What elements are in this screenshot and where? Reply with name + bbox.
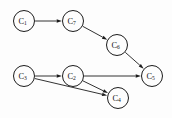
- node-label-subscript: 7: [73, 20, 76, 26]
- edge-layer: [35, 19, 144, 96]
- node-c7[interactable]: C7: [63, 11, 84, 32]
- edge-c6-to-c5: [125, 52, 143, 68]
- node-c1[interactable]: C1: [14, 11, 35, 32]
- node-c6[interactable]: C6: [107, 35, 128, 56]
- arrowhead-icon: [57, 19, 62, 22]
- edge-c1-to-c7: [35, 19, 62, 22]
- arrowhead-icon: [102, 36, 107, 40]
- node-label-subscript: 6: [117, 44, 120, 50]
- arrowhead-icon: [136, 74, 141, 77]
- edge-c2-to-c5: [84, 74, 141, 77]
- directed-graph: C1C7C6C3C2C5C4: [0, 0, 172, 118]
- node-label-subscript: 1: [24, 20, 27, 26]
- node-c5[interactable]: C5: [142, 66, 163, 87]
- node-c4[interactable]: C4: [108, 88, 129, 109]
- node-c2[interactable]: C2: [63, 66, 84, 87]
- edge-c2-to-c4: [83, 81, 108, 93]
- node-c3[interactable]: C3: [14, 66, 35, 87]
- arrowhead-icon: [102, 93, 107, 96]
- node-label-subscript: 4: [118, 97, 121, 103]
- edge-c7-to-c6: [83, 26, 108, 39]
- node-label-subscript: 3: [24, 75, 27, 81]
- node-layer: C1C7C6C3C2C5C4: [14, 11, 163, 109]
- node-label-subscript: 5: [152, 75, 155, 81]
- arrowhead-icon: [57, 74, 62, 77]
- edge-c3-to-c2: [35, 74, 62, 77]
- node-label-subscript: 2: [73, 75, 76, 81]
- diagram-canvas: C1C7C6C3C2C5C4: [0, 0, 172, 118]
- arrowhead-icon: [103, 89, 108, 93]
